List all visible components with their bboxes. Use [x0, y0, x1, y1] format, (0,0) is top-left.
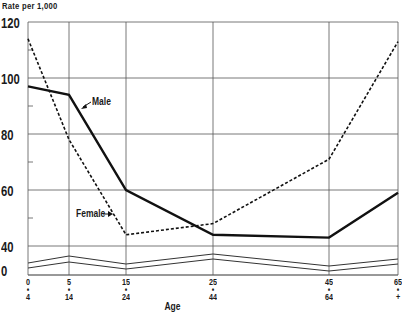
x-axis-title: Age: [164, 301, 180, 312]
x-tick-0-4: 0•4: [18, 278, 37, 302]
y-tick-80: 80: [1, 127, 14, 142]
y-tick-40: 40: [1, 239, 14, 254]
y-axis-title: Rate per 1,000: [2, 1, 57, 11]
male-arrowhead-icon: [81, 104, 87, 109]
plot-area: [0, 0, 410, 320]
x-tick-15-24: 15•24: [116, 278, 135, 302]
x-tick-bottom: 64: [325, 292, 333, 302]
x-tick-bottom: 24: [122, 292, 130, 302]
x-tick-25-44: 25•44: [203, 278, 222, 302]
x-tick-5-14: 5•14: [59, 278, 78, 302]
y-tick-100: 100: [1, 71, 20, 86]
y-tick-60: 60: [1, 183, 14, 198]
y-tick-0: 0: [1, 263, 7, 278]
x-tick-bottom: +: [396, 292, 400, 302]
female-series-label: Female: [76, 208, 105, 219]
x-tick-bottom: 14: [65, 292, 73, 302]
rate-by-age-chart: Rate per 1,000 120 100 80 60 40 0 0•4 5•…: [0, 0, 410, 320]
y-tick-120: 120: [1, 15, 20, 30]
male-series-label: Male: [92, 96, 111, 107]
x-tick-bottom: 4: [26, 292, 30, 302]
x-tick-bottom: 44: [209, 292, 217, 302]
x-tick-45-64: 45•64: [319, 278, 338, 302]
female-arrowhead-icon: [108, 211, 113, 217]
x-tick-65-plus: 65•+: [388, 278, 407, 302]
